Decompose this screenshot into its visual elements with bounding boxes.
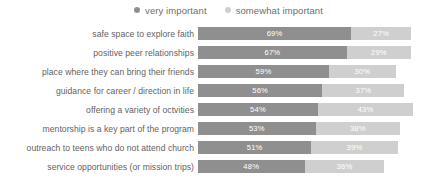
chart-rows: safe space to explore faith69%27%positiv… [0, 24, 427, 176]
chart-row: mentorship is a key part of the program5… [0, 119, 427, 138]
bar-value-label: 36% [337, 163, 353, 171]
stacked-bar-chart: very important somewhat important safe s… [0, 0, 427, 188]
bar-value-label: 53% [249, 125, 265, 133]
chart-row-bars: 59%30% [198, 65, 427, 78]
bar-value-label: 29% [371, 49, 387, 57]
bar-value-label: 67% [264, 49, 280, 57]
chart-row: outreach to teens who do not attend chur… [0, 138, 427, 157]
bar-segment-somewhat-important[interactable]: 37% [322, 84, 404, 97]
legend-item-label: somewhat important [236, 5, 323, 16]
dot-icon [225, 7, 231, 13]
chart-row-bars: 48%36% [198, 160, 427, 173]
bar-value-label: 54% [250, 106, 266, 114]
chart-row-bars: 51%39% [198, 141, 427, 154]
dot-icon [134, 7, 140, 13]
bar-segment-somewhat-important[interactable]: 39% [311, 141, 398, 154]
bar-value-label: 56% [252, 87, 268, 95]
chart-row-label: guidance for career / direction in life [0, 86, 198, 96]
bar-segment-somewhat-important[interactable]: 38% [316, 122, 400, 135]
bar-value-label: 37% [355, 87, 371, 95]
bar-segment-very-important[interactable]: 56% [198, 84, 322, 97]
bar-segment-very-important[interactable]: 69% [198, 27, 351, 40]
chart-row-bars: 69%27% [198, 27, 427, 40]
bar-segment-very-important[interactable]: 48% [198, 160, 305, 173]
bar-segment-very-important[interactable]: 54% [198, 103, 318, 116]
chart-row-bars: 67%29% [198, 46, 427, 59]
bar-segment-somewhat-important[interactable]: 29% [347, 46, 411, 59]
chart-row-label: outreach to teens who do not attend chur… [0, 143, 198, 153]
bar-value-label: 59% [256, 68, 272, 76]
bar-value-label: 27% [373, 30, 389, 38]
chart-row: place where they can bring their friends… [0, 62, 427, 81]
bar-value-label: 48% [243, 163, 259, 171]
chart-legend: very important somewhat important [0, 0, 427, 20]
chart-row-bars: 56%37% [198, 84, 427, 97]
chart-row: offering a variety of octvities54%43% [0, 100, 427, 119]
bar-segment-somewhat-important[interactable]: 43% [318, 103, 413, 116]
legend-item-somewhat-important: somewhat important [225, 5, 323, 16]
bar-value-label: 39% [347, 144, 363, 152]
bar-value-label: 69% [267, 30, 283, 38]
chart-row-label: offering a variety of octvities [0, 105, 198, 115]
bar-value-label: 51% [247, 144, 263, 152]
bar-value-label: 43% [358, 106, 374, 114]
chart-row-label: positive peer relationships [0, 48, 198, 58]
bar-segment-somewhat-important[interactable]: 30% [329, 65, 396, 78]
chart-row: positive peer relationships67%29% [0, 43, 427, 62]
chart-row: safe space to explore faith69%27% [0, 24, 427, 43]
bar-segment-very-important[interactable]: 51% [198, 141, 311, 154]
bar-value-label: 30% [354, 68, 370, 76]
bar-segment-very-important[interactable]: 59% [198, 65, 329, 78]
chart-row: service opportunities (or mission trips)… [0, 157, 427, 176]
chart-row: guidance for career / direction in life5… [0, 81, 427, 100]
chart-row-label: service opportunities (or mission trips) [0, 162, 198, 172]
bar-segment-somewhat-important[interactable]: 36% [305, 160, 385, 173]
legend-item-label: very important [145, 5, 207, 16]
bar-value-label: 38% [350, 125, 366, 133]
chart-row-label: mentorship is a key part of the program [0, 124, 198, 134]
chart-row-label: place where they can bring their friends [0, 67, 198, 77]
chart-row-bars: 54%43% [198, 103, 427, 116]
chart-row-label: safe space to explore faith [0, 29, 198, 39]
bar-segment-very-important[interactable]: 53% [198, 122, 316, 135]
bar-segment-somewhat-important[interactable]: 27% [351, 27, 411, 40]
chart-row-bars: 53%38% [198, 122, 427, 135]
bar-segment-very-important[interactable]: 67% [198, 46, 347, 59]
legend-item-very-important: very important [134, 5, 207, 16]
